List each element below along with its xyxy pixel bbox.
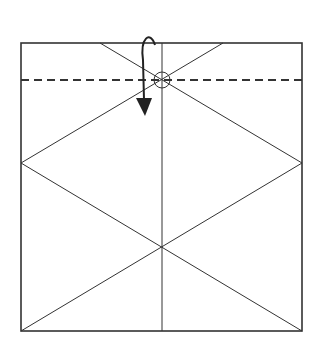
crease-top-right-diag — [21, 43, 223, 163]
arrowhead-icon — [136, 98, 152, 116]
fold-arrow-icon — [142, 37, 155, 100]
crease-lines — [21, 43, 302, 331]
crease-top-left-diag — [100, 43, 302, 163]
fold-diagram — [0, 0, 329, 359]
